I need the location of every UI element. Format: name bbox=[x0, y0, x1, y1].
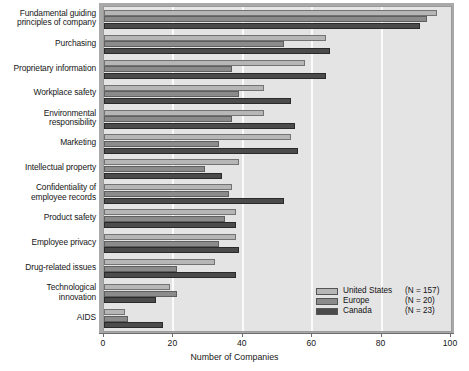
legend: United States (N = 157) Europe (N = 20) … bbox=[312, 283, 443, 320]
bar bbox=[104, 222, 236, 228]
bar bbox=[104, 272, 236, 278]
bar bbox=[104, 91, 239, 97]
legend-label-canada: Canada bbox=[343, 306, 405, 316]
category-label: Workplace safety bbox=[34, 88, 96, 98]
legend-swatch-icon-canada bbox=[316, 308, 338, 315]
category-label: Proprietary information bbox=[14, 64, 96, 74]
bar bbox=[104, 73, 326, 79]
x-tick bbox=[450, 333, 451, 337]
bar bbox=[104, 66, 232, 72]
bar bbox=[104, 322, 163, 328]
bar bbox=[104, 173, 222, 179]
category-label: Fundamental guiding principles of compan… bbox=[17, 9, 96, 28]
category-label: Employee privacy bbox=[32, 238, 97, 248]
bar bbox=[104, 134, 291, 140]
bar bbox=[104, 23, 420, 29]
bar bbox=[104, 10, 437, 16]
x-axis-line bbox=[99, 333, 454, 334]
x-tick-label: 80 bbox=[376, 338, 386, 348]
bar bbox=[104, 259, 215, 265]
bar bbox=[104, 60, 305, 66]
bar bbox=[104, 110, 264, 116]
legend-label-europe: Europe bbox=[343, 296, 405, 306]
category-label: Marketing bbox=[60, 138, 96, 148]
category-label: Intellectual property bbox=[25, 163, 96, 173]
bar bbox=[104, 241, 219, 247]
category-label: Technological innovation bbox=[47, 283, 96, 302]
bar bbox=[104, 316, 128, 322]
x-tick-label: 60 bbox=[306, 338, 316, 348]
bar bbox=[104, 166, 205, 172]
bar bbox=[104, 85, 264, 91]
bar bbox=[104, 116, 232, 122]
bar bbox=[104, 291, 177, 297]
category-label: Drug-related issues bbox=[25, 263, 96, 273]
category-label: Confidentiality of employee records bbox=[31, 183, 96, 202]
bar bbox=[104, 159, 239, 165]
legend-item-united-states[interactable]: United States (N = 157) bbox=[316, 286, 439, 296]
legend-count-europe: (N = 20) bbox=[405, 296, 435, 306]
x-tick-label: 0 bbox=[101, 338, 106, 348]
bar bbox=[104, 216, 225, 222]
bar bbox=[104, 266, 177, 272]
legend-count-united-states: (N = 157) bbox=[405, 286, 439, 296]
bar bbox=[104, 297, 156, 303]
legend-label-united-states: United States bbox=[343, 286, 405, 296]
x-tick bbox=[172, 333, 173, 337]
bar bbox=[104, 234, 236, 240]
bar bbox=[104, 98, 291, 104]
bar bbox=[104, 184, 232, 190]
x-tick bbox=[103, 333, 104, 337]
gridline-40 bbox=[242, 7, 244, 331]
legend-item-europe[interactable]: Europe (N = 20) bbox=[316, 296, 439, 306]
category-label: Environmental responsibility bbox=[44, 109, 96, 128]
bar bbox=[104, 148, 298, 154]
x-tick bbox=[381, 333, 382, 337]
x-axis-title: Number of Companies bbox=[0, 352, 469, 362]
bar bbox=[104, 141, 219, 147]
x-tick bbox=[242, 333, 243, 337]
bar bbox=[104, 35, 326, 41]
x-tick-label: 20 bbox=[168, 338, 178, 348]
bar bbox=[104, 209, 236, 215]
bar bbox=[104, 198, 284, 204]
bar bbox=[104, 284, 170, 290]
bar bbox=[104, 123, 295, 129]
legend-item-canada[interactable]: Canada (N = 23) bbox=[316, 306, 439, 316]
x-tick-label: 100 bbox=[443, 338, 457, 348]
bar bbox=[104, 309, 125, 315]
category-axis-labels: Fundamental guiding principles of compan… bbox=[0, 6, 99, 330]
bar bbox=[104, 48, 330, 54]
x-tick bbox=[311, 333, 312, 337]
legend-swatch-icon-europe bbox=[316, 298, 338, 305]
x-tick-label: 40 bbox=[237, 338, 247, 348]
bar bbox=[104, 41, 284, 47]
category-label: AIDS bbox=[77, 313, 96, 323]
bar-chart: Fundamental guiding principles of compan… bbox=[0, 0, 469, 371]
category-label: Purchasing bbox=[55, 39, 96, 49]
bar bbox=[104, 16, 427, 22]
legend-swatch-icon-united-states bbox=[316, 288, 338, 295]
legend-count-canada: (N = 23) bbox=[405, 306, 435, 316]
bar bbox=[104, 191, 229, 197]
category-label: Product safety bbox=[44, 213, 96, 223]
bar bbox=[104, 247, 239, 253]
